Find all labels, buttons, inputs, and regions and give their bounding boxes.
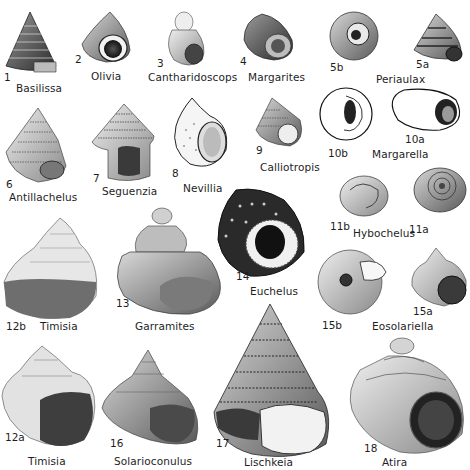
- figure-number-17: 17: [216, 437, 229, 449]
- shell-timisia-12b: [4, 218, 97, 319]
- label-margarites: Margarites: [248, 71, 305, 83]
- label-eosolariella: Eosolariella: [372, 320, 433, 332]
- figure-number-10a: 10a: [405, 133, 425, 145]
- figure-number-5a: 5a: [416, 58, 429, 70]
- figure-number-14: 14: [236, 270, 249, 282]
- shell-garramites: [117, 208, 220, 314]
- label-euchelus: Euchelus: [250, 285, 298, 297]
- figure-number-15b: 15b: [322, 319, 342, 331]
- shell-eosolariella-15b: [318, 250, 386, 314]
- figure-number-15a: 15a: [413, 305, 433, 317]
- shell-atira: [350, 338, 463, 453]
- figure-number-10b: 10b: [328, 147, 348, 159]
- figure-number-12b: 12b: [6, 320, 26, 332]
- label-nevillia: Nevillia: [183, 182, 222, 194]
- label-garramites: Garramites: [135, 320, 195, 332]
- shell-basilissa: [6, 12, 56, 72]
- shell-lischkeia: [214, 304, 329, 456]
- shell-eosolariella-15a: [412, 248, 466, 306]
- label-basilissa: Basilissa: [16, 82, 62, 94]
- shell-seguenzia: [92, 104, 154, 181]
- label-antillachelus: Antillachelus: [9, 191, 77, 203]
- label-margarella: Margarella: [372, 148, 429, 160]
- shell-nevillia: [175, 98, 227, 166]
- shell-periaulax-5a: [414, 14, 462, 61]
- figure-number-13: 13: [116, 297, 129, 309]
- label-periaulax: Periaulax: [376, 73, 425, 85]
- figure-number-4: 4: [240, 55, 247, 67]
- shell-hybochelus-11a: [414, 168, 466, 212]
- figure-number-18: 18: [364, 442, 377, 454]
- shell-euchelus: [218, 189, 304, 276]
- figure-number-7: 7: [93, 172, 100, 184]
- shell-hybochelus-11b: [340, 176, 388, 216]
- label-hybochelus: Hybochelus: [353, 227, 415, 239]
- figure-number-6: 6: [6, 178, 13, 190]
- figure-number-16: 16: [110, 437, 123, 449]
- label-calliotropis: Calliotropis: [260, 161, 320, 173]
- label-atira: Atira: [382, 456, 407, 468]
- shell-margarites: [244, 14, 293, 60]
- figure-number-11b: 11b: [330, 220, 350, 232]
- figure-number-9: 9: [256, 144, 263, 156]
- label-cantharidoscops: Cantharidoscops: [148, 71, 237, 83]
- shell-margarella-10a: [392, 89, 459, 130]
- label-olivia: Olivia: [91, 70, 121, 82]
- label-timisia-12b: Timisia: [40, 320, 78, 332]
- shell-cantharidoscops: [168, 12, 204, 65]
- figure-number-12a: 12a: [5, 431, 25, 443]
- shell-periaulax-5b: [330, 12, 378, 60]
- label-seguenzia: Seguenzia: [102, 185, 157, 197]
- shell-calliotropis: [256, 98, 302, 146]
- label-solarioconulus: Solarioconulus: [114, 455, 192, 467]
- shell-solarioconulus: [102, 350, 198, 444]
- figure-number-8: 8: [172, 167, 179, 179]
- label-lischkeia: Lischkeia: [244, 456, 293, 468]
- fossil-gastropod-plate: 1 2 3 4 5b 5a 6 7 8 9 10b 10a 11b 11a 12…: [0, 0, 470, 470]
- figure-number-1: 1: [4, 71, 11, 83]
- shell-antillachelus: [6, 108, 66, 182]
- figure-number-3: 3: [157, 57, 164, 69]
- figure-number-2: 2: [75, 53, 82, 65]
- figure-number-5b: 5b: [330, 61, 343, 73]
- shell-olivia: [82, 12, 130, 62]
- label-timisia-12a: Timisia: [28, 455, 66, 467]
- shell-margarella-10b: [320, 88, 372, 140]
